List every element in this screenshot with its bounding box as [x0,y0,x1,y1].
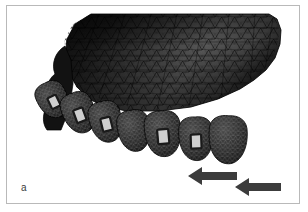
finite-element-model-graphic [7,6,301,205]
tooth-6 [178,116,214,161]
force-arrow-lower [235,178,281,196]
tooth-7 [208,115,248,164]
force-arrow-group [188,167,281,196]
figure-frame: a [6,5,300,204]
panel-label: a [21,183,27,193]
tooth-mesh-overlay [208,115,248,164]
fem-render-canvas [7,6,301,205]
tooth-5 [143,109,183,158]
force-arrow-upper [188,167,237,185]
figure-root: a [0,0,308,212]
orthodontic-bracket [191,134,202,148]
